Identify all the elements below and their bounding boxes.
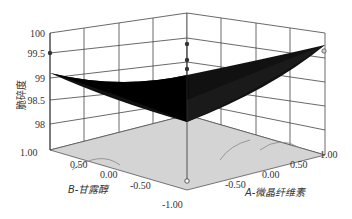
svg-text:99.5: 99.5 xyxy=(28,48,46,59)
svg-text:98.5: 98.5 xyxy=(28,95,46,106)
svg-text:0.00: 0.00 xyxy=(262,169,280,180)
svg-text:0.50: 0.50 xyxy=(70,159,88,170)
svg-text:-0.50: -0.50 xyxy=(130,180,151,191)
design-point xyxy=(322,49,326,53)
svg-text:1.00: 1.00 xyxy=(320,149,338,160)
a-axis-label: A-微晶纤维素 xyxy=(244,187,306,198)
response-surface-chart: 100 99.5 99 98.5 98 脆碎度 1.00 0.50 0.00 -… xyxy=(0,0,352,219)
svg-text:1.00: 1.00 xyxy=(20,147,38,158)
svg-text:-1.00: -1.00 xyxy=(162,199,183,210)
svg-text:99: 99 xyxy=(35,73,45,84)
design-point xyxy=(185,58,189,62)
design-point xyxy=(185,42,189,46)
b-axis-label: B-甘露醇 xyxy=(68,184,110,195)
design-point xyxy=(185,179,189,183)
svg-text:0.50: 0.50 xyxy=(290,159,308,170)
svg-text:0.00: 0.00 xyxy=(100,169,118,180)
z-axis-label: 脆碎度 xyxy=(15,80,27,110)
svg-text:100: 100 xyxy=(30,28,45,39)
design-point xyxy=(185,67,189,71)
z-axis-ticks: 100 99.5 99 98.5 98 xyxy=(28,28,46,130)
svg-text:-0.50: -0.50 xyxy=(225,179,246,190)
svg-text:98: 98 xyxy=(35,119,45,130)
